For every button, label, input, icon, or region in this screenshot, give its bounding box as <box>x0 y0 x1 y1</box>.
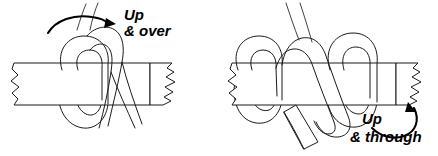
up-and-over-arrow <box>48 16 116 33</box>
caption-up-through-line1: Up <box>362 110 382 127</box>
diagram-canvas: Up & over <box>0 0 438 156</box>
band-tails-top <box>286 3 312 42</box>
caption-up-over-line1: Up <box>124 6 144 23</box>
band-free-end <box>284 105 318 149</box>
caption-up-over-line2: & over <box>124 22 172 39</box>
knot-diagram-figure: Up & over <box>0 0 438 156</box>
horizontal-strap <box>11 63 175 105</box>
panel-right: Up & through <box>228 3 422 149</box>
panel-left: Up & over <box>11 3 175 128</box>
caption-up-through-line2: & through <box>350 128 422 145</box>
